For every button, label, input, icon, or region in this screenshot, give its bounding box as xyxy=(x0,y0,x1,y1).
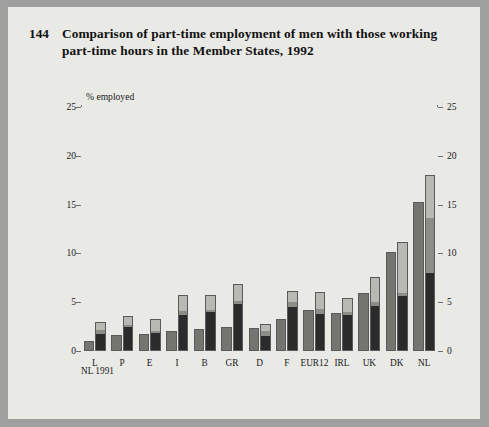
bar-group-irl: IRL xyxy=(331,298,353,351)
bar-group-e: E xyxy=(139,319,161,351)
y-tick-label-right-0: 0 xyxy=(443,346,469,356)
bar-declared-p xyxy=(111,335,122,351)
segment-working-10-29-hrs-uk xyxy=(371,306,380,350)
y-tick-label-right-20: 20 xyxy=(443,151,469,161)
segment-working-10-29-hrs-nl xyxy=(426,273,435,350)
bar-stacked-p xyxy=(123,316,134,351)
bar-group-uk: UK xyxy=(358,277,380,351)
segment-working-10-29-hrs-i xyxy=(179,315,188,350)
segment-working-10-29-hrs-gr xyxy=(234,304,243,350)
y-tick-label-right-5: 5 xyxy=(443,297,469,307)
bar-declared-eur12 xyxy=(303,310,314,351)
x-tick-label-f: F xyxy=(284,358,289,368)
bar-group-d: D xyxy=(249,324,271,351)
footnote: NL 1991 xyxy=(81,366,114,376)
bar-stacked-eur12 xyxy=(315,292,326,351)
bar-stacked-i xyxy=(178,295,189,351)
bar-group-l: L xyxy=(84,322,106,351)
x-tick-label-uk: UK xyxy=(363,358,376,368)
segment-working-30-34-hrs-l xyxy=(96,323,105,330)
segment-working-10-29-hrs-eur12 xyxy=(316,314,325,350)
bar-declared-dk xyxy=(386,252,397,351)
y-tick-label-left-25: 25 xyxy=(54,102,76,112)
bar-declared-f xyxy=(276,319,287,351)
bar-group-nl: NL xyxy=(413,175,435,351)
bar-declared-gr xyxy=(221,327,232,351)
bar-stacked-nl xyxy=(425,175,436,351)
bar-group-gr: GR xyxy=(221,284,243,351)
segment-working-10-29-hrs-f xyxy=(288,307,297,350)
segment-working-30-34-hrs-dk xyxy=(398,243,407,293)
x-tick-label-i: I xyxy=(176,358,179,368)
segment-working-30-34-hrs-e xyxy=(151,320,160,331)
bar-declared-d xyxy=(249,328,260,351)
segment-working-10-29-hrs-irl xyxy=(343,315,352,350)
plot-area: LPEIBGRDFEUR12IRLUKDKNL xyxy=(81,107,438,351)
bar-series-container: LPEIBGRDFEUR12IRLUKDKNL xyxy=(81,107,438,351)
bar-declared-b xyxy=(194,329,205,351)
bar-stacked-gr xyxy=(233,284,244,351)
bar-stacked-uk xyxy=(370,277,381,351)
segment-working-30-34-hrs-gr xyxy=(234,285,243,301)
segment-working-10-29-hrs-dk xyxy=(398,296,407,350)
y-tick-label-left-10: 10 xyxy=(54,249,76,259)
segment-working-30-34-hrs-uk xyxy=(371,278,380,302)
bar-stacked-e xyxy=(150,319,161,351)
y-tick-left-0 xyxy=(76,351,81,352)
segment-working-10-29-hrs-d xyxy=(261,336,270,350)
segment-working-30-34-hrs-i xyxy=(179,296,188,311)
x-tick-label-gr: GR xyxy=(226,358,239,368)
x-tick-label-eur12: EUR12 xyxy=(300,358,328,368)
bar-group-dk: DK xyxy=(386,242,408,351)
figure-number: 144 xyxy=(29,25,49,59)
x-tick-label-d: D xyxy=(256,358,263,368)
segment-working-10-29-hrs-p xyxy=(124,327,133,350)
bar-declared-irl xyxy=(331,313,342,351)
bar-group-eur12: EUR12 xyxy=(303,292,325,351)
x-tick-label-irl: IRL xyxy=(334,358,349,368)
bar-stacked-d xyxy=(260,324,271,351)
bar-declared-l xyxy=(84,341,95,351)
y-tick-label-right-25: 25 xyxy=(443,102,469,112)
figure-page: 144 Comparison of part-time employment o… xyxy=(8,7,480,419)
bar-declared-i xyxy=(166,331,177,351)
page-title: Comparison of part-time employment of me… xyxy=(62,25,454,59)
y-tick-label-left-15: 15 xyxy=(54,200,76,210)
y-tick-label-left-5: 5 xyxy=(54,297,76,307)
segment-working-10-29-hrs-b xyxy=(206,312,215,350)
bar-declared-nl xyxy=(413,202,424,351)
segment-working-30-34-hrs-p xyxy=(124,317,133,325)
segment-working-30-34-hrs-irl xyxy=(343,299,352,311)
bar-stacked-l xyxy=(95,322,106,351)
x-tick-label-dk: DK xyxy=(390,358,403,368)
x-tick-label-e: E xyxy=(147,358,153,368)
y-tick-label-left-20: 20 xyxy=(54,151,76,161)
x-tick-label-b: B xyxy=(201,358,207,368)
bar-stacked-irl xyxy=(342,298,353,351)
figure-title-block: 144 Comparison of part-time employment o… xyxy=(29,25,454,59)
bar-stacked-b xyxy=(205,295,216,351)
segment-working-30-34-hrs-eur12 xyxy=(316,293,325,308)
bar-declared-uk xyxy=(358,293,369,351)
bar-group-i: I xyxy=(166,295,188,351)
y-axis-unit-label: % employed xyxy=(86,91,134,102)
bar-group-f: F xyxy=(276,291,298,352)
x-tick-label-p: P xyxy=(120,358,125,368)
bar-declared-e xyxy=(139,334,150,351)
segment-working-10-29-hrs-l xyxy=(96,334,105,350)
y-tick-label-right-15: 15 xyxy=(443,200,469,210)
segment-working-30-34-hrs-f xyxy=(288,292,297,302)
chart-area: % employed 00551010151520202525 Working … xyxy=(64,91,455,378)
segment-working-10-29-hrs-e xyxy=(151,333,160,350)
x-tick-label-nl: NL xyxy=(418,358,430,368)
bar-stacked-f xyxy=(287,291,298,352)
segment-working-30-34-hrs-nl xyxy=(426,176,435,217)
bar-group-b: B xyxy=(194,295,216,351)
segment-working-10-hrs-nl xyxy=(426,218,435,273)
y-tick-label-left-0: 0 xyxy=(54,346,76,356)
bar-stacked-dk xyxy=(397,242,408,351)
bar-group-p: P xyxy=(111,316,133,351)
y-tick-label-right-10: 10 xyxy=(443,249,469,259)
segment-working-30-34-hrs-b xyxy=(206,296,215,309)
